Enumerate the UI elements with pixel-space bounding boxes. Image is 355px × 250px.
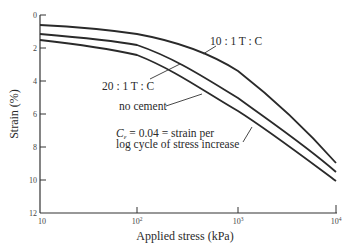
- y-tick-label: 6: [33, 110, 37, 119]
- x-tick-label: 104: [331, 216, 342, 226]
- consolidation-chart: 0 2 4 6 8 10 12 10 102 103 104 Strain (%…: [0, 0, 355, 250]
- axes: [40, 15, 337, 213]
- x-tick-label: 103: [233, 216, 244, 226]
- curves: [40, 25, 336, 181]
- y-tick-label: 0: [33, 11, 37, 20]
- y-tick-label: 8: [33, 143, 37, 152]
- annotation-compression-index-line2: log cycle of stress increase: [116, 138, 239, 151]
- annotation-no-cement: no cement: [119, 100, 167, 112]
- y-tick-label: 10: [29, 176, 37, 185]
- y-tick-label: 12: [29, 209, 37, 218]
- x-axis-title: Applied stress (kPa): [136, 229, 233, 243]
- x-tick-label: 102: [132, 216, 143, 226]
- annotation-10-1-tc: 10 : 1 T : C: [210, 35, 263, 47]
- x-ticks: 10 102 103 104: [38, 205, 342, 226]
- curve-20-1-tc: [40, 34, 336, 172]
- y-axis-title: Strain (%): [7, 89, 21, 139]
- annotation-20-1-tc: 20 : 1 T : C: [102, 80, 155, 92]
- x-tick-label: 10: [38, 217, 46, 226]
- y-tick-label: 2: [33, 44, 37, 53]
- y-ticks: 0 2 4 6 8 10 12: [29, 11, 46, 218]
- curve-no-cement: [40, 40, 336, 181]
- y-tick-label: 4: [33, 77, 37, 86]
